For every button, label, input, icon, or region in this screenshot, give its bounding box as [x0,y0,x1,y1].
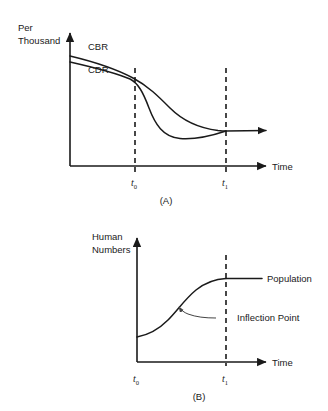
panel-a-y-axis-label-line2: Thousand [18,35,60,46]
panel-a: Per Thousand CBR CDR Time t0 t1 (A) [18,22,293,206]
panel-b-t0-tick: t0 [133,373,139,386]
panel-b-population-curve [137,279,226,338]
panel-a-converged-tail [226,131,266,132]
panel-b-y-axis-label-line2: Numbers [92,244,131,255]
panel-a-y-axis-label-line1: Per [18,22,33,33]
panel-b-y-axis-label-line1: Human [92,231,123,242]
panel-a-cdr-label: CDR [88,64,109,75]
panel-a-t1-tick: t1 [222,177,228,190]
panel-a-x-axis-label: Time [272,161,293,172]
panel-b-x-axis-label: Time [272,357,293,368]
panel-b-population-label: Population [267,273,312,284]
inflection-point-leader-line [179,307,216,318]
demographic-transition-figure: Per Thousand CBR CDR Time t0 t1 (A) [0,0,328,411]
panel-a-t0-tick: t0 [131,177,137,190]
panel-b: Human Numbers Population Inflection Poin… [92,231,312,402]
inflection-point-label: Inflection Point [237,312,300,323]
panel-a-cbr-label: CBR [88,41,108,52]
panel-a-caption: (A) [160,195,173,206]
panel-b-caption: (B) [193,391,206,402]
panel-b-t1-tick: t1 [222,373,228,386]
figure-svg: Per Thousand CBR CDR Time t0 t1 (A) [0,0,328,411]
